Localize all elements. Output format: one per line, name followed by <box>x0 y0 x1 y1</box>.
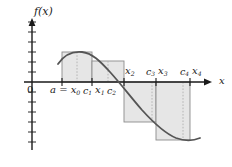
sample-label-c3-sub: 3 <box>151 71 155 77</box>
partition-label-x0-text: a = x <box>50 84 76 95</box>
riemann-sum-plot <box>0 0 232 167</box>
partition-label-x0-sub: 0 <box>76 89 80 96</box>
partition-label-x3-sub: 3 <box>164 70 168 77</box>
sample-label-c1: c1 <box>83 86 92 97</box>
origin-label: 0 <box>27 85 33 95</box>
x-axis-label: x <box>219 76 225 86</box>
sample-label-c4-sub: 4 <box>185 71 189 77</box>
partition-label-x0: a = x0 <box>50 85 80 96</box>
rect-3 <box>124 82 156 122</box>
sample-label-c4: c4 <box>180 67 189 78</box>
sample-label-c1-sub: 1 <box>88 90 92 96</box>
partition-label-x4: x4 <box>192 66 202 77</box>
partition-label-x1-sub: 1 <box>101 89 105 96</box>
sample-label-c2-sub: 2 <box>112 90 116 96</box>
rect-4 <box>156 82 190 140</box>
x-axis-arrow-icon <box>204 79 212 86</box>
sample-label-c3: c3 <box>146 67 155 78</box>
partition-label-x1: x1 <box>95 85 105 96</box>
y-axis-label: f(x) <box>34 6 53 17</box>
partition-label-x2: x2 <box>125 66 135 77</box>
sample-label-c2: c2 <box>107 86 116 97</box>
partition-label-x3: x3 <box>158 66 168 77</box>
partition-label-x2-sub: 2 <box>131 70 135 77</box>
partition-label-x4-sub: 4 <box>198 70 202 77</box>
riemann-sum-figure: f(x) 0 a = x0 c1 x1 c2 x2 c3 x3 c4 x4 x <box>0 0 232 167</box>
